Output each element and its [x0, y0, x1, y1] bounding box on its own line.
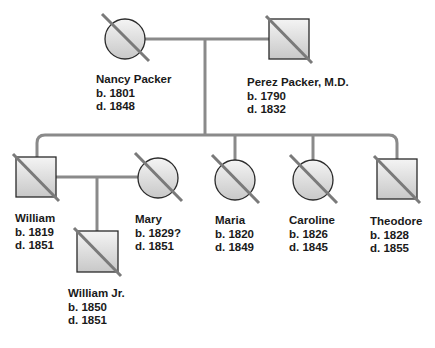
death-year: d. 1851 [135, 240, 181, 254]
person-name: William Jr. [68, 287, 125, 301]
perez-label: Perez Packer, M.D. b. 1790 d. 1832 [247, 76, 349, 117]
maria-label: Maria b. 1820 d. 1849 [215, 214, 254, 255]
death-year: d. 1848 [96, 100, 171, 114]
death-year: d. 1851 [68, 314, 125, 328]
theodore-male-symbol[interactable] [374, 156, 420, 203]
person-name: William [15, 212, 55, 226]
sibship-line [37, 135, 397, 159]
birth-year: b. 1826 [289, 228, 335, 242]
death-year: d. 1851 [15, 239, 55, 253]
person-name: Perez Packer, M.D. [247, 76, 349, 90]
death-year: d. 1832 [247, 103, 349, 117]
nancy-female-symbol[interactable] [102, 14, 149, 61]
william-male-symbol[interactable] [13, 154, 59, 201]
william-jr-male-symbol[interactable] [74, 228, 121, 276]
william-jr-label: William Jr. b. 1850 d. 1851 [68, 287, 125, 328]
nancy-label: Nancy Packer b. 1801 d. 1848 [96, 73, 171, 114]
birth-year: b. 1820 [215, 228, 254, 242]
person-name: Caroline [289, 214, 335, 228]
death-year: d. 1855 [370, 242, 422, 256]
pedigree-diagram [0, 0, 435, 348]
person-name: Maria [215, 214, 254, 228]
theodore-label: Theodore b. 1828 d. 1855 [370, 215, 422, 256]
birth-year: b. 1819 [15, 226, 55, 240]
person-name: Theodore [370, 215, 422, 229]
birth-year: b. 1801 [96, 87, 171, 101]
person-name: Mary [135, 213, 181, 227]
mary-female-symbol[interactable] [135, 153, 182, 201]
william-label: William b. 1819 d. 1851 [15, 212, 55, 253]
birth-year: b. 1790 [247, 90, 349, 104]
birth-year: b. 1850 [68, 301, 125, 315]
caroline-female-symbol[interactable] [290, 155, 337, 203]
death-year: d. 1849 [215, 241, 254, 255]
birth-year: b. 1829? [135, 227, 181, 241]
caroline-label: Caroline b. 1826 d. 1845 [289, 214, 335, 255]
birth-year: b. 1828 [370, 229, 422, 243]
person-name: Nancy Packer [96, 73, 171, 87]
perez-male-symbol[interactable] [266, 16, 312, 63]
maria-female-symbol[interactable] [212, 155, 259, 203]
death-year: d. 1845 [289, 241, 335, 255]
mary-label: Mary b. 1829? d. 1851 [135, 213, 181, 254]
